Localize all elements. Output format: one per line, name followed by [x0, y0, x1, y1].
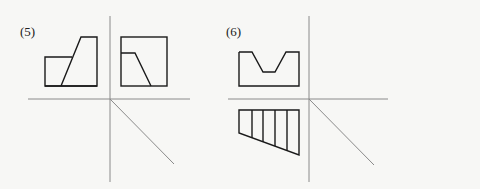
- figure-5-axes: [28, 16, 190, 182]
- figure-5-miter-line: [110, 99, 174, 164]
- drawing-canvas: [0, 0, 480, 189]
- figure-6-top-view: [239, 110, 299, 155]
- figure-5-front-view: [45, 37, 97, 86]
- figure-6-axes: [228, 16, 388, 182]
- figure-6-miter-line: [309, 99, 374, 165]
- figure-6-front-view: [239, 52, 299, 86]
- figure-5-side-view: [121, 37, 167, 86]
